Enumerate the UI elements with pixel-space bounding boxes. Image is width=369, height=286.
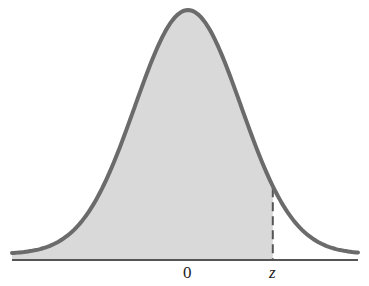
normal-curve-diagram: [0, 0, 369, 286]
z-label: z: [269, 263, 276, 283]
zero-label: 0: [183, 263, 192, 283]
shaded-area: [12, 10, 273, 260]
